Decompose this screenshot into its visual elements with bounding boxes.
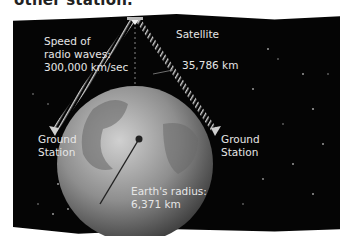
ground-station-left-label: Ground Station (38, 133, 77, 159)
satellite-label: Satellite (176, 28, 219, 41)
altitude-label: 35,786 km (182, 59, 238, 72)
radio-speed-label: Speed of radio waves: 300,000 km/sec (44, 35, 128, 74)
heading-cropped: other station. (14, 0, 133, 9)
earth-radius-label: Earth's radius: 6,371 km (131, 185, 207, 211)
ground-station-right-label: Ground Station (221, 133, 260, 159)
